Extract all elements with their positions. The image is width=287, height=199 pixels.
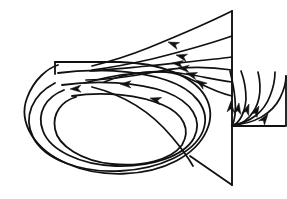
vortex-diagram-figure bbox=[0, 0, 287, 199]
vortex-streamline-canvas bbox=[0, 0, 287, 199]
